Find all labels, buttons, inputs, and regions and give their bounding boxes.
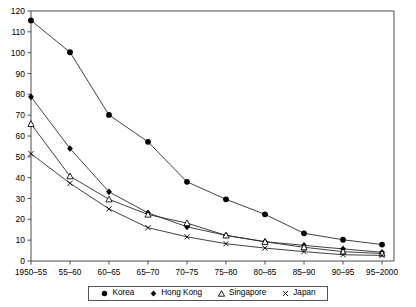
x-tick-label: 75–80 <box>215 268 238 277</box>
y-axis: 0102030405060708090100110120 <box>11 6 31 266</box>
data-point <box>67 49 73 55</box>
x-tick-label: 60–65 <box>98 268 121 277</box>
legend-item-singapore: Singapore <box>217 289 266 298</box>
x-tick-label: 95–2000 <box>366 268 398 277</box>
legend-label-hong-kong: Hong Kong <box>161 289 202 297</box>
data-point <box>262 211 268 217</box>
data-point <box>223 196 229 202</box>
x-tick-label: 80–85 <box>254 268 277 277</box>
y-tick-label: 80 <box>16 89 26 99</box>
series-hong-kong <box>28 94 385 256</box>
x-axis: 1950–5555–6060–6565–7070–7575–8080–8585–… <box>15 261 398 277</box>
legend-item-hong-kong: Hong Kong <box>149 289 202 298</box>
legend-item-korea: Korea <box>100 289 134 298</box>
y-tick-label: 120 <box>11 6 25 16</box>
legend-item-japan: Japan <box>281 289 315 298</box>
y-tick-label: 70 <box>16 110 26 120</box>
legend-label-singapore: Singapore <box>229 289 266 297</box>
line-chart-plot: 0102030405060708090100110120 1950–5555–6… <box>0 0 416 307</box>
data-point <box>145 139 151 145</box>
x-tick-label: 85–90 <box>293 268 316 277</box>
open-triangle-icon <box>217 289 226 298</box>
series-singapore <box>28 121 385 256</box>
x-tick-label: 55–60 <box>59 268 82 277</box>
y-tick-label: 40 <box>16 173 26 183</box>
cross-x-icon <box>281 289 290 298</box>
x-tick-label: 90–95 <box>332 268 355 277</box>
series-japan <box>28 151 384 258</box>
x-tick-label: 70–75 <box>176 268 199 277</box>
data-point <box>301 230 307 236</box>
data-point <box>28 121 34 127</box>
chart-legend: Korea Hong Kong Singapore Japan <box>88 286 328 301</box>
filled-diamond-icon <box>149 289 158 298</box>
series-korea <box>28 17 385 247</box>
y-tick-label: 60 <box>16 131 26 141</box>
legend-label-korea: Korea <box>112 289 134 297</box>
y-tick-label: 0 <box>20 256 25 266</box>
data-point <box>67 181 72 186</box>
data-point <box>106 206 111 211</box>
chart-container: 0102030405060708090100110120 1950–5555–6… <box>0 0 416 307</box>
y-tick-label: 110 <box>11 27 25 37</box>
y-tick-label: 10 <box>16 235 26 245</box>
filled-circle-icon <box>100 289 109 298</box>
legend-label-japan: Japan <box>293 289 315 297</box>
y-tick-label: 30 <box>16 194 26 204</box>
data-point <box>106 196 112 202</box>
y-tick-label: 100 <box>11 48 25 58</box>
data-point <box>106 112 112 118</box>
data-point <box>340 237 346 243</box>
data-series-group <box>28 17 385 258</box>
y-tick-label: 90 <box>16 69 26 79</box>
data-point <box>184 179 190 185</box>
x-tick-label: 1950–55 <box>15 268 47 277</box>
y-tick-label: 50 <box>16 152 26 162</box>
y-tick-label: 20 <box>16 214 26 224</box>
data-point <box>379 242 385 248</box>
plot-frame <box>31 11 394 261</box>
data-point <box>28 17 34 23</box>
x-tick-label: 65–70 <box>137 268 160 277</box>
